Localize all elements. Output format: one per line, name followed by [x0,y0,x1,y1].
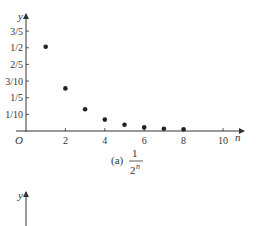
x-tick-label: 6 [142,135,147,146]
y-tick-label: 1/5 [10,92,23,103]
svg-text:2: 2 [130,164,136,176]
data-point [162,126,167,131]
y-axis-label: y [17,189,23,201]
data-point [103,117,108,122]
chart-a: y n O 1/101/53/102/51/23/5 246810 (a) 1 … [5,10,244,176]
y-tick-label: 2/5 [10,59,23,70]
svg-text:1: 1 [132,147,138,159]
data-point [83,107,88,112]
origin-label: O [15,134,23,146]
data-point [63,86,68,91]
x-tick-label: 10 [218,135,228,146]
y-tick-label: 1/10 [5,109,23,120]
data-point [142,125,147,130]
data-point [181,127,186,132]
x-tick-label: 4 [102,135,107,146]
x-tick-label: 8 [181,135,186,146]
caption: (a) 1 2 n [111,147,143,176]
data-points [43,44,186,131]
y-tick-label: 3/10 [5,76,23,87]
svg-text:n: n [136,162,140,171]
data-point [122,122,127,127]
y-tick-label: 1/2 [10,42,23,53]
x-axis-label: n [235,131,241,143]
chart-b: y [17,189,26,226]
y-ticks: 1/101/53/102/51/23/5 [5,26,29,120]
y-axis-label: y [17,10,23,22]
svg-text:(a): (a) [111,154,124,167]
data-point [43,44,48,49]
y-tick-label: 3/5 [10,26,23,37]
figure: y n O 1/101/53/102/51/23/5 246810 (a) 1 … [0,0,267,226]
x-tick-label: 2 [63,135,68,146]
